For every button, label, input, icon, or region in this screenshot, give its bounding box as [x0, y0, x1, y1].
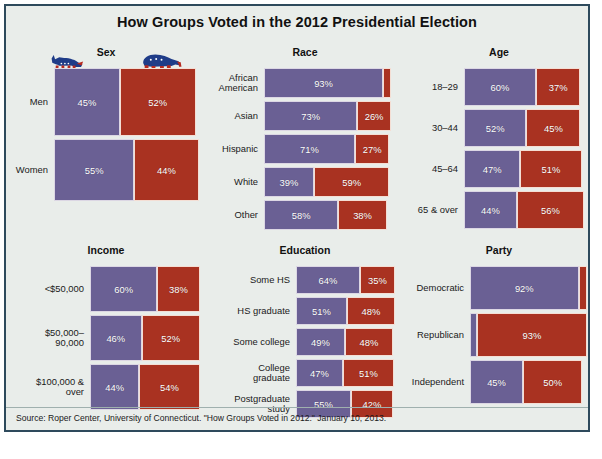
chart-row: 65 & over44%56%: [406, 191, 592, 229]
bar-value-democrat: 49%: [311, 337, 330, 348]
bar-value-democrat: 44%: [481, 205, 500, 216]
chart-row: Republican6%93%: [406, 313, 592, 357]
bar-value-democrat: 39%: [280, 177, 299, 188]
bar-republican: 38%: [157, 266, 200, 312]
bar-democrat: 64%: [296, 266, 360, 294]
infographic-frame: How Groups Voted in the 2012 Presidentia…: [4, 4, 590, 432]
chart-row: HS graduate51%48%: [210, 297, 400, 325]
chart-rows-party: Democratic92%7%Republican6%93%Independen…: [406, 266, 592, 407]
row-bars: 93%6%: [264, 68, 392, 98]
row-label: Republican: [406, 330, 470, 341]
panel-title-party: Party: [406, 244, 592, 256]
bar-value-republican: 48%: [362, 306, 381, 317]
bar-value-republican: 54%: [160, 382, 179, 393]
bar-value-democrat: 45%: [487, 377, 506, 388]
bar-republican: 38%: [338, 200, 387, 230]
bar-democrat: 39%: [264, 167, 314, 197]
panel-title-sex: Sex: [6, 46, 206, 58]
bar-value-democrat: 93%: [314, 78, 333, 89]
chart-rows-sex: Men45%52%Women55%44%: [6, 68, 206, 204]
panel-title-income: Income: [6, 244, 206, 256]
row-bars: 46%52%: [90, 315, 202, 361]
row-bars: 6%93%: [470, 313, 588, 357]
bar-value-democrat: 60%: [491, 82, 510, 93]
bar-democrat: 60%: [90, 266, 157, 312]
bar-value-democrat: 52%: [486, 123, 505, 134]
bar-value-democrat: 73%: [301, 111, 320, 122]
row-bars: 64%35%: [296, 266, 396, 294]
bar-value-republican: 56%: [541, 205, 560, 216]
page-title: How Groups Voted in the 2012 Presidentia…: [6, 14, 588, 30]
chart-row: Asian73%26%: [210, 101, 400, 131]
bar-value-democrat: 44%: [105, 382, 124, 393]
bar-value-democrat: 64%: [319, 275, 338, 286]
bar-value-republican: 38%: [169, 284, 188, 295]
row-bars: 49%48%: [296, 328, 396, 356]
bar-democrat: 45%: [470, 360, 523, 404]
panel-title-age: Age: [406, 46, 592, 58]
bar-value-democrat: 51%: [312, 306, 331, 317]
row-label: Some college: [210, 337, 296, 348]
chart-row: 18–2960%37%: [406, 68, 592, 106]
bar-democrat: 52%: [464, 109, 526, 147]
row-bars: 60%37%: [464, 68, 584, 106]
bar-democrat: 44%: [90, 364, 139, 410]
row-label: White: [210, 177, 264, 188]
row-bars: 51%48%: [296, 297, 396, 325]
bar-republican: 48%: [345, 328, 393, 356]
bar-republican: 7%: [579, 266, 587, 310]
row-label: <$50,000: [6, 284, 90, 295]
bar-democrat: 51%: [296, 297, 347, 325]
bar-value-republican: 26%: [365, 111, 384, 122]
bar-republican: 35%: [360, 266, 395, 294]
chart-rows-age: 18–2960%37%30–4452%45%45–6447%51%65 & ov…: [406, 68, 592, 232]
panel-title-race: Race: [210, 46, 400, 58]
row-label: HS graduate: [210, 306, 296, 317]
row-bars: 52%45%: [464, 109, 584, 147]
chart-row: 45–6447%51%: [406, 150, 592, 188]
row-bars: 71%27%: [264, 134, 392, 164]
row-label: 30–44: [406, 123, 464, 134]
row-label: College graduate: [210, 363, 296, 384]
bar-democrat: 60%: [464, 68, 536, 106]
bar-republican: 45%: [526, 109, 580, 147]
row-bars: 47%51%: [296, 359, 396, 387]
row-bars: 73%26%: [264, 101, 392, 131]
row-label: African American: [210, 73, 264, 94]
row-label: Hispanic: [210, 144, 264, 155]
row-bars: 47%51%: [464, 150, 584, 188]
bar-value-democrat: 47%: [483, 164, 502, 175]
chart-row: African American93%6%: [210, 68, 400, 98]
chart-row: College graduate47%51%: [210, 359, 400, 387]
bar-value-democrat: 92%: [515, 283, 534, 294]
bar-republican: 51%: [520, 150, 581, 188]
row-bars: 44%56%: [464, 191, 584, 229]
row-bars: 45%52%: [54, 68, 200, 136]
chart-row: White39%59%: [210, 167, 400, 197]
bar-value-republican: 50%: [543, 377, 562, 388]
bar-republican: 48%: [347, 297, 395, 325]
row-label: $50,000– 90,000: [6, 328, 90, 349]
chart-row: $50,000– 90,00046%52%: [6, 315, 206, 361]
bar-value-republican: 52%: [161, 333, 180, 344]
bar-democrat: 55%: [54, 139, 134, 201]
row-bars: 44%54%: [90, 364, 202, 410]
chart-row: Democratic92%7%: [406, 266, 592, 310]
bar-democrat: 49%: [296, 328, 345, 356]
bar-republican: 52%: [120, 68, 196, 136]
row-label: Independent: [406, 377, 470, 388]
row-label: Some HS: [210, 275, 296, 286]
bar-republican: 93%: [477, 313, 587, 357]
row-bars: 45%50%: [470, 360, 588, 404]
bar-value-republican: 51%: [359, 368, 378, 379]
bar-democrat: 46%: [90, 315, 142, 361]
chart-row: Some HS64%35%: [210, 266, 400, 294]
bar-value-republican: 37%: [549, 82, 568, 93]
row-bars: 39%59%: [264, 167, 392, 197]
chart-rows-race: African American93%6%Asian73%26%Hispanic…: [210, 68, 400, 233]
chart-rows-education: Some HS64%35%HS graduate51%48%Some colle…: [210, 266, 400, 421]
bar-republican: 6%: [383, 68, 391, 98]
bar-value-republican: 52%: [148, 97, 167, 108]
bar-democrat: 92%: [470, 266, 579, 310]
bar-democrat: 71%: [264, 134, 355, 164]
